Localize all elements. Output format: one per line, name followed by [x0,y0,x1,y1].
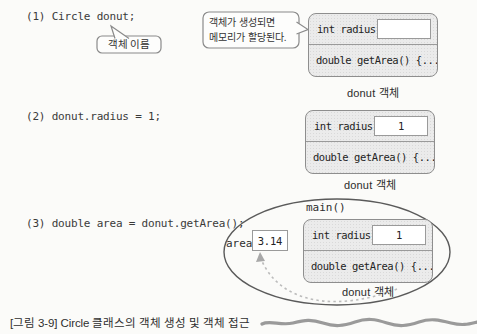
return-value-arrowhead [256,252,265,262]
radius-value-slot: 1 [372,225,426,245]
field-row: int radius 1 [304,220,432,250]
memory-allocation-bubble-text: 객체가 생성되면 메모리가 할당된다. [205,15,301,45]
object-box-step2: int radius 1 double getArea() {...} [305,110,435,174]
object-box-caption: donut 객체 [305,176,435,192]
object-box-caption: donut 객체 [308,84,438,100]
object-box-caption: donut 객체 [303,283,433,299]
bubble-line-1: 객체가 생성되면 [209,15,301,30]
method-row: double getArea() {...} [309,44,437,74]
radius-value: 1 [398,120,404,132]
caption-underline-squiggle [262,319,477,325]
bubble-line-2: 메모리가 할당된다. [209,30,301,45]
radius-value: 1 [396,229,402,241]
main-scope-label: main() [306,201,346,214]
step2-code-line: (2) donut.radius = 1; [26,110,161,123]
area-variable-label: area [226,237,253,250]
radius-value-slot: 1 [374,116,428,136]
field-row: int radius 1 [306,111,434,141]
radius-field-label: int radius [317,23,376,35]
object-name-callout-label: 객체 이름 [97,37,161,52]
radius-value-slot [377,19,431,39]
method-row: double getArea() {...} [304,250,432,280]
object-box-step1: int radius double getArea() {...} [308,13,438,77]
step3-code-line: (3) double area = donut.getArea(); [26,217,244,230]
radius-field-label: int radius [314,120,373,132]
getarea-method-label: double getArea() {...} [313,151,435,163]
radius-field-label: int radius [312,229,371,241]
area-value-box: 3.14 [252,230,288,251]
area-value: 3.14 [258,235,283,247]
step1-code-line: (1) Circle donut; [26,10,135,23]
getarea-method-label: double getArea() {...} [316,54,438,66]
field-row: int radius [309,14,437,44]
figure-caption: [그림 3-9] Circle 클래스의 객체 생성 및 객체 접근 [10,314,250,330]
figure-diagram: (1) Circle donut; 객체 이름 객체가 생성되면 메모리가 할당… [0,0,477,334]
object-box-step3: int radius 1 double getArea() {...} [303,219,433,283]
method-row: double getArea() {...} [306,141,434,171]
getarea-method-label: double getArea() {...} [311,260,433,272]
